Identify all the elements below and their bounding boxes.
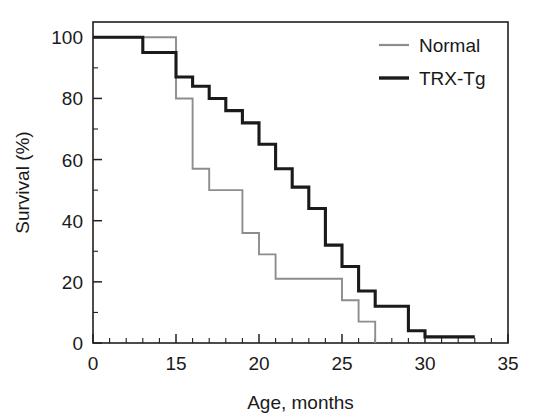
y-tick-label: 0 (72, 333, 83, 354)
x-tick-label: 35 (497, 353, 518, 374)
survival-chart-figure: 01520253035 020406080100 Age, months Sur… (0, 0, 537, 420)
x-tick-label: 20 (248, 353, 269, 374)
plot-canvas: 01520253035 020406080100 Age, months Sur… (0, 0, 537, 420)
y-tick-label: 80 (62, 88, 83, 109)
legend-label-trx-tg: TRX-Tg (419, 68, 486, 89)
y-axis-title: Survival (%) (12, 131, 33, 233)
x-tick-label: 0 (88, 353, 99, 374)
x-axis-title: Age, months (247, 392, 354, 413)
y-tick-label: 40 (62, 211, 83, 232)
x-tick-label: 15 (165, 353, 186, 374)
legend-label-normal: Normal (419, 35, 480, 56)
x-tick-label: 25 (331, 353, 352, 374)
y-tick-label: 60 (62, 150, 83, 171)
y-tick-label: 20 (62, 272, 83, 293)
y-tick-label: 100 (51, 27, 83, 48)
x-tick-label: 30 (414, 353, 435, 374)
